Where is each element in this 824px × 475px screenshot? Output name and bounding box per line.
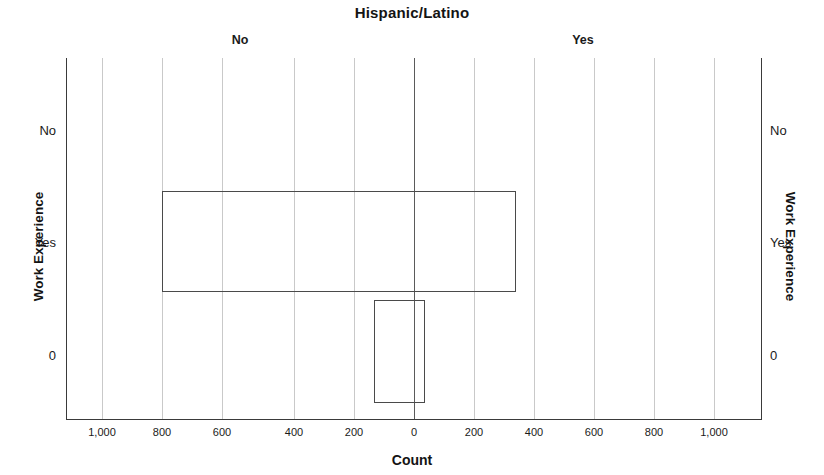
x-tick-label: 800 bbox=[153, 426, 171, 438]
x-tick-label: 200 bbox=[345, 426, 363, 438]
bar-yes[interactable] bbox=[162, 191, 516, 292]
chart-title: Hispanic/Latino bbox=[0, 4, 824, 21]
x-tick-label: 400 bbox=[285, 426, 303, 438]
bar-0[interactable] bbox=[374, 300, 425, 403]
x-tick-label: 0 bbox=[411, 426, 417, 438]
x-axis-title: Count bbox=[0, 452, 824, 468]
y-tick-label: No bbox=[770, 123, 787, 138]
x-tick-label: 800 bbox=[645, 426, 663, 438]
y-axis-title-right: Work Experience bbox=[783, 157, 798, 337]
x-tick-label: 600 bbox=[213, 426, 231, 438]
x-tick-label: 1,000 bbox=[88, 426, 116, 438]
x-tick-label: 200 bbox=[465, 426, 483, 438]
column-header-no: No bbox=[232, 33, 249, 47]
y-axis-title-left: Work Experience bbox=[31, 157, 46, 337]
chart-container: Hispanic/Latino No Yes NoYes0 NoYes0 1,0… bbox=[0, 0, 824, 475]
y-tick-label: No bbox=[39, 123, 56, 138]
y-tick-label: 0 bbox=[49, 348, 56, 363]
x-tick-label: 600 bbox=[585, 426, 603, 438]
x-tick-label: 400 bbox=[525, 426, 543, 438]
y-tick-label: 0 bbox=[770, 348, 777, 363]
column-header-yes: Yes bbox=[572, 33, 594, 47]
x-tick-label: 1,000 bbox=[700, 426, 728, 438]
